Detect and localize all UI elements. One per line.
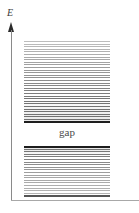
baseline-axis-line bbox=[11, 200, 139, 201]
axis-label-energy: E bbox=[7, 7, 13, 18]
upper-band-bottom-edge bbox=[24, 121, 110, 123]
lower-band bbox=[24, 146, 110, 197]
lower-band-bottom-edge bbox=[24, 195, 110, 197]
energy-axis-line bbox=[11, 30, 12, 200]
lower-band-shading bbox=[24, 146, 110, 197]
upper-band bbox=[24, 41, 110, 123]
gap-label: gap bbox=[0, 126, 134, 139]
upper-band-shading bbox=[24, 41, 110, 123]
energy-band-diagram: E gap bbox=[0, 0, 139, 213]
lower-band-top-edge bbox=[24, 146, 110, 148]
